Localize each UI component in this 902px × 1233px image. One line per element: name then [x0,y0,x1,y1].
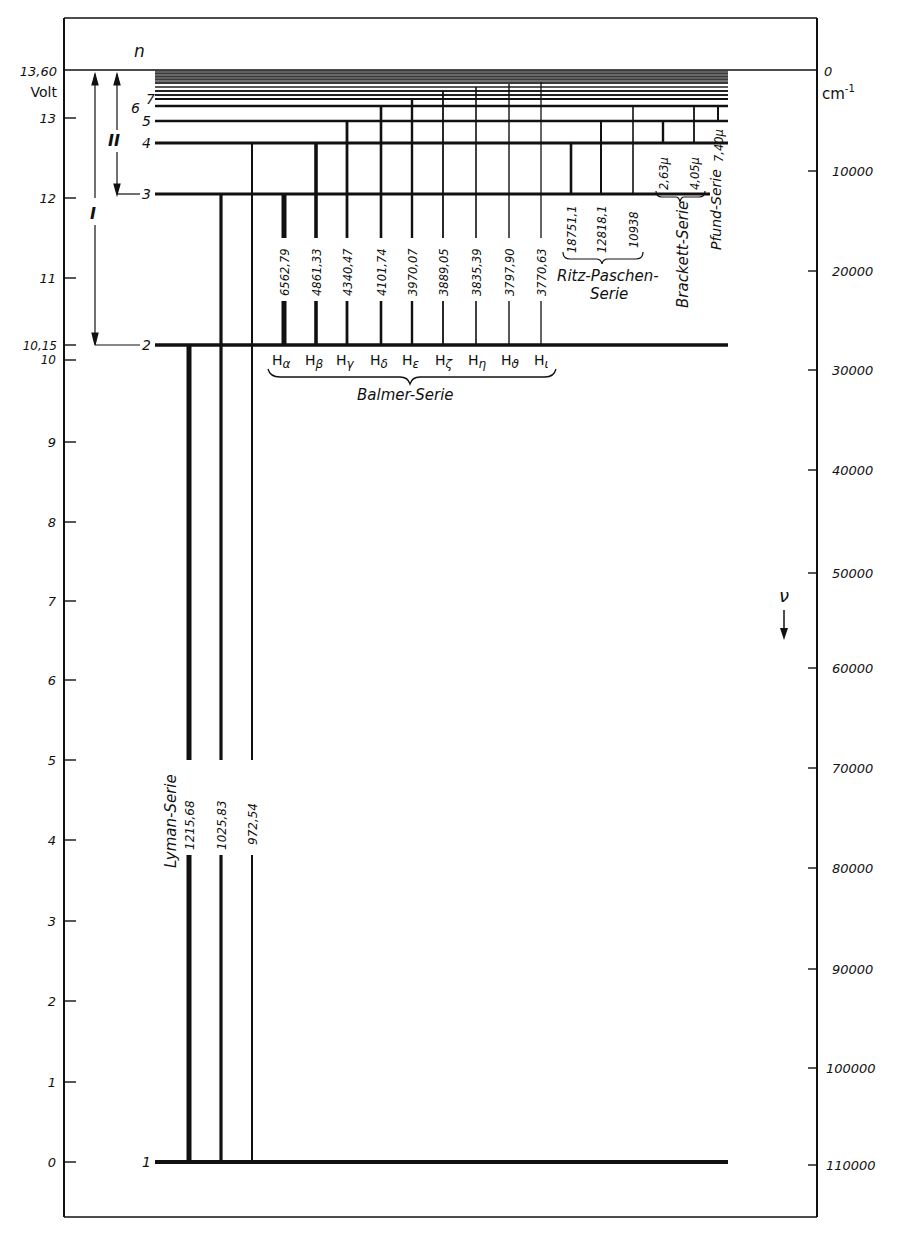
lyman-series [189,143,252,1162]
wavelength-label: 4861,33 [310,248,324,296]
line-symbol: Hι [534,352,549,371]
wavelength-label: 972,54 [246,803,260,845]
series-name: Serie [590,285,628,303]
series-name: Brackett-Serie [674,201,692,308]
wavelength-label: 4,05μ [688,157,702,190]
wavelength-label: 1025,83 [215,800,229,850]
line-symbol: Hϑ [501,352,520,371]
tick-label: 0 [824,64,832,79]
arrow-down-icon [780,628,788,640]
wavelength-label: 4340,47 [341,248,355,296]
tick-label: 70000 [832,761,873,776]
marker-II: II [108,131,120,150]
tick-label: 10,15 [23,339,57,353]
frame [64,18,817,1217]
tick-label: 100000 [826,1061,876,1076]
right-axis-labels: 0 cm-1 10000 20000 30000 40000 50000 600… [822,64,876,1173]
tick-label: 60000 [832,661,873,676]
level-label: 3 [142,186,151,202]
wavelength-label: 2,63μ [657,157,671,190]
wavelength-label: 7,40μ [712,129,726,162]
line-symbol: Hη [468,352,487,371]
tick-label: 13 [39,111,56,126]
series-name: Balmer-Serie [357,386,454,404]
tick-label: 3 [48,914,56,929]
tick-label: 9 [48,435,56,450]
wavelength-label: 18751,1 [565,205,579,253]
level-label: 5 [142,113,151,129]
axis-top-value: 13,60 [20,64,57,79]
level-label: 7 [146,91,155,107]
wavelength-label: 3889,05 [437,248,451,296]
tick-label: 90000 [832,962,873,977]
level-label: 4 [142,135,151,151]
series-name: Pfund-Serie [708,169,724,250]
paschen-series [571,106,633,194]
level-label: 1 [142,1154,151,1170]
tick-label: 6 [48,673,56,688]
tick-label: 40000 [832,463,873,478]
tick-label: 7 [48,594,57,609]
tick-label: 8 [48,515,56,530]
tick-label: 4 [48,833,56,848]
line-symbol: Hγ [336,352,355,371]
wavelength-label: 1215,68 [183,800,197,850]
wavelength-label: 4101,74 [375,248,389,296]
hydrogen-energy-level-diagram: 13,60 Volt 13 12 11 10,15 10 9 8 7 6 5 4… [0,0,902,1233]
tick-label: 12 [39,191,56,206]
wavenumber-direction-indicator: ν [779,585,789,640]
tick-label: 110000 [826,1158,876,1173]
wavelength-label: 6562,79 [278,248,292,296]
left-axis-labels: 13,60 Volt 13 12 11 10,15 10 9 8 7 6 5 4… [20,64,58,1170]
wavelength-label: 3797,90 [503,248,517,296]
brackett-series [663,106,694,143]
tick-label: 0 [48,1155,56,1170]
wavelength-label: 3835,39 [470,248,484,296]
series-name: Lyman-Serie [162,774,180,868]
tick-label: 1 [48,1075,56,1090]
line-symbol: Hα [272,352,291,371]
balmer-brace [268,369,556,384]
wavelength-label: 3770,63 [535,248,549,296]
wavelength-label: 10938 [627,211,641,248]
right-axis [808,171,817,1165]
series-name: Ritz-Paschen- [557,267,659,285]
level-labels: n 7 6 5 4 3 2 1 [131,41,155,1170]
wavelength-label: 12818,1 [595,205,609,253]
tick-label: 5 [48,753,56,768]
balmer-wavelength-labels: 6562,79 4861,33 4340,47 4101,74 3970,07 … [278,248,549,296]
axis-unit-wavenumber: cm-1 [822,83,855,103]
tick-label: 30000 [832,363,873,378]
tick-label: 2 [48,994,56,1009]
n-header: n [134,41,145,61]
brackett-labels: 2,63μ 4,05μ [657,157,702,190]
tick-label: 50000 [832,566,873,581]
lyman-labels: 1215,68 1025,83 972,54 Lyman-Serie [162,774,260,868]
tick-label: 11 [39,271,56,286]
tick-label: 10000 [832,164,873,179]
line-symbol: Hδ [370,352,388,371]
line-symbol: Hζ [435,352,454,371]
nu-symbol: ν [779,585,789,606]
level-label: 6 [131,100,140,116]
converging-levels [155,70,728,95]
balmer-line-symbols: Hα Hβ Hγ Hδ Hε Hζ Hη Hϑ Hι [272,352,549,371]
left-axis [64,118,76,1162]
axis-unit-volt: Volt [31,84,58,100]
line-symbol: Hε [402,352,420,371]
level-label: 2 [142,337,151,353]
wavelength-label: 3970,07 [406,248,420,296]
paschen-labels: 18751,1 12818,1 10938 [565,205,641,253]
line-symbol: Hβ [305,352,324,371]
tick-label: 20000 [832,264,873,279]
tick-label: 80000 [832,861,873,876]
marker-I: I [90,204,96,223]
tick-label: 10 [41,353,57,367]
